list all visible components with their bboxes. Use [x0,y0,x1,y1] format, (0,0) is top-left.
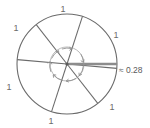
sector-label-upper-left: 1 [13,23,18,33]
diagram-canvas: 1 1 1 1 1 1 ≈ 0.28 [0,0,150,128]
sector-label-lower-left: 1 [6,82,11,92]
spoke-4 [52,64,67,112]
geometry-figure: 1 1 1 1 1 1 ≈ 0.28 [0,0,150,128]
spoke-3 [17,60,67,64]
sector-label-upper-right: 1 [113,30,118,40]
sector-label-lower-right: 1 [109,102,114,112]
sector-label-bottom: 1 [48,116,53,126]
measurement-label: ≈ 0.28 [119,65,143,75]
spoke-1 [67,16,82,64]
centre-point [65,62,68,65]
sector-label-top: 1 [60,4,65,14]
